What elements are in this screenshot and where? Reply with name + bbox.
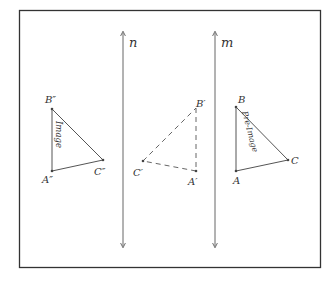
vertex-label-a-double-prime: A″: [41, 174, 53, 185]
line-n-label: n: [129, 35, 137, 50]
line-m-label: m: [221, 35, 233, 50]
triangle-pre-image: B A C Pre-Image: [232, 94, 299, 186]
vertex-label-a: A: [232, 175, 240, 186]
vertex-label-a-prime: A′: [187, 176, 198, 187]
line-m: m: [215, 33, 233, 246]
vertex-label-b-double-prime: B″: [44, 94, 56, 105]
vertex-label-b-prime: B′: [195, 98, 206, 109]
triangle-intermediate: B′ A′ C′: [133, 98, 206, 187]
vertex-label-c-prime: C′: [133, 167, 144, 178]
vertex-label-b: B: [237, 94, 245, 105]
vertex-label-c: C: [291, 155, 299, 166]
vertex-label-c-double-prime: C″: [94, 166, 106, 177]
reflection-diagram: n m B″ A″ C″ Image B′ A′ C′ B A C Pre-Im…: [0, 0, 336, 283]
triangle-image: B″ A″ C″ Image: [41, 94, 106, 185]
pre-image-caption: Pre-Image: [240, 109, 260, 153]
line-n: n: [123, 33, 137, 246]
image-caption: Image: [54, 120, 64, 148]
